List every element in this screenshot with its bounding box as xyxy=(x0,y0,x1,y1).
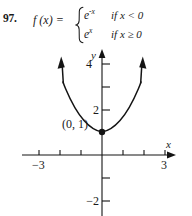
y-tick-label-2: 2 xyxy=(93,103,99,117)
case-condition-1: if x < 0 xyxy=(111,9,143,21)
case-expression-1: e-x xyxy=(84,7,111,21)
x-tick-label-neg3: −3 xyxy=(32,158,45,172)
case-expression-2: ex xyxy=(84,26,111,40)
case-condition-2: if x ≥ 0 xyxy=(111,28,142,40)
graph-figure: (0, 1) x y −3 3 4 2 −2 xyxy=(0,44,192,216)
piecewise-cases: e-x if x < 0 ex if x ≥ 0 xyxy=(84,7,192,45)
problem-statement: 97. f (x) = e-x if x < 0 ex if x ≥ 0 xyxy=(0,0,192,46)
x-axis xyxy=(22,152,176,159)
y-tick-label-neg2: −2 xyxy=(86,194,99,208)
point-marker-0-1 xyxy=(99,129,105,135)
x-tick-label-3: 3 xyxy=(161,158,167,172)
curve-right-branch xyxy=(102,57,146,133)
function-definition-label: f (x) = xyxy=(33,13,64,28)
curly-brace-icon xyxy=(75,6,84,44)
piecewise-case-row: e-x if x < 0 xyxy=(84,7,192,26)
piecewise-case-row: ex if x ≥ 0 xyxy=(84,26,192,45)
problem-number: 97. xyxy=(3,12,17,24)
point-label-0-1: (0, 1) xyxy=(62,117,88,131)
x-axis-label: x xyxy=(165,138,171,150)
y-tick-label-4: 4 xyxy=(86,57,92,71)
